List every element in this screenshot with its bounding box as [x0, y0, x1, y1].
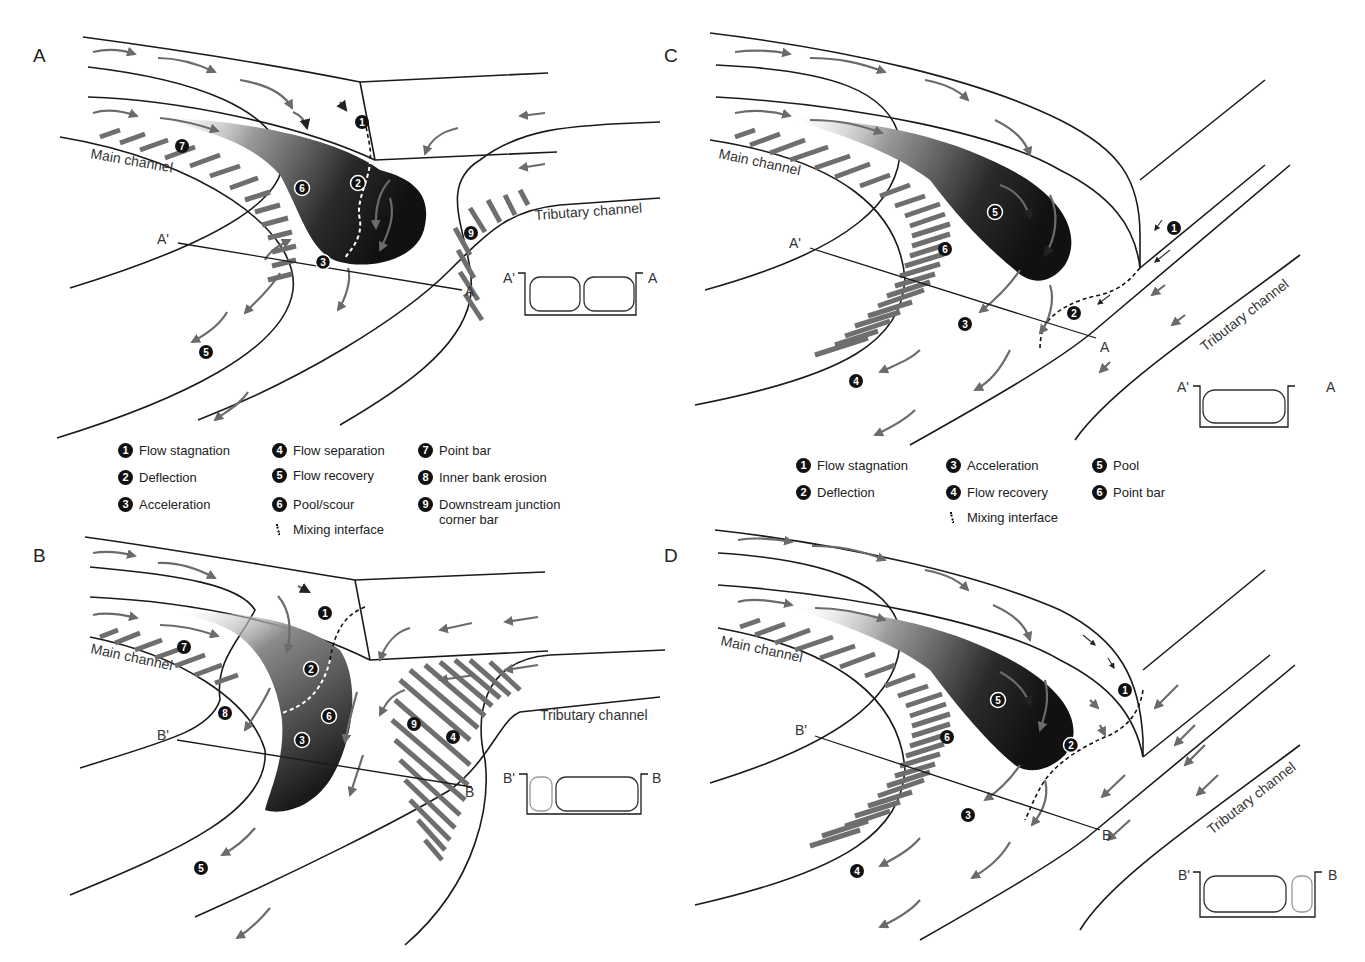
svg-text:2: 2 [1068, 740, 1074, 751]
corner-bar-hatch [392, 660, 520, 860]
svg-text:6: 6 [942, 244, 948, 255]
legend-item: 4Flow recovery [946, 485, 1048, 500]
svg-text:2: 2 [1071, 308, 1077, 319]
legend-item: Mixing interface [272, 522, 384, 537]
legend-left: 1Flow stagnation 2Deflection 3Accelerati… [118, 443, 578, 543]
svg-text:B': B' [503, 770, 515, 786]
svg-text:4: 4 [450, 732, 456, 743]
cross-section-inset: A' A [503, 270, 658, 315]
marker-2-icon: 2 [796, 485, 811, 500]
panel-d: D [664, 530, 1337, 940]
section-end-label: A [465, 283, 475, 299]
flow-arrows [738, 539, 1218, 927]
cross-section-inset: A' A [1177, 379, 1336, 427]
legend-right: 1Flow stagnation 2Deflection 3Accelerati… [796, 458, 1216, 533]
svg-text:2: 2 [308, 664, 314, 675]
tributary-channel-label: Tributary channel [540, 707, 648, 723]
legend-item: 1Flow stagnation [118, 443, 230, 458]
section-start-label: A' [789, 235, 801, 251]
svg-text:4: 4 [854, 866, 860, 877]
section-end-label: B [465, 784, 474, 800]
svg-text:B': B' [1178, 867, 1190, 883]
svg-text:A': A' [503, 270, 515, 286]
svg-text:1: 1 [359, 117, 365, 128]
mixing-interface-icon [272, 522, 287, 537]
legend-item: 4Flow separation [272, 443, 385, 458]
svg-text:B: B [652, 770, 661, 786]
mixing-interface-icon [946, 510, 961, 525]
cross-section-inset: B' B [1178, 867, 1337, 917]
tributary-channel-label: Tributary channel [1204, 758, 1299, 837]
panel-a-label: A [33, 45, 46, 66]
svg-text:3: 3 [299, 735, 305, 746]
svg-text:7: 7 [179, 141, 185, 152]
svg-text:8: 8 [222, 708, 228, 719]
svg-text:1: 1 [1171, 223, 1177, 234]
section-start-label: B' [157, 727, 169, 743]
marker-6-icon: 6 [1092, 485, 1107, 500]
section-end-label: B [1102, 827, 1111, 843]
marker-9-icon: 9 [418, 497, 433, 512]
legend-item: 5Pool [1092, 458, 1139, 473]
svg-text:1: 1 [322, 608, 328, 619]
panel-b-label: B [33, 545, 46, 566]
svg-text:2: 2 [355, 178, 361, 189]
svg-text:9: 9 [468, 228, 474, 239]
marker-5-icon: 5 [1092, 458, 1107, 473]
panel-d-label: D [664, 545, 678, 566]
legend-item: 8Inner bank erosion [418, 470, 547, 485]
legend-item: 1Flow stagnation [796, 458, 908, 473]
svg-text:4: 4 [853, 376, 859, 387]
marker-6-icon: 6 [272, 497, 287, 512]
tributary-channel-label: Tributary channel [534, 200, 643, 223]
marker-2-icon: 2 [118, 470, 133, 485]
marker-3-icon: 3 [118, 497, 133, 512]
svg-text:3: 3 [320, 257, 326, 268]
legend-item: Mixing interface [946, 510, 1058, 525]
svg-text:A': A' [1177, 379, 1189, 395]
legend-item: 6Point bar [1092, 485, 1165, 500]
svg-text:3: 3 [962, 319, 968, 330]
tributary-channel-label: Tributary channel [1197, 275, 1292, 354]
svg-text:9: 9 [411, 719, 417, 730]
panel-c: C [664, 33, 1336, 445]
main-channel-label: Main channel [89, 640, 174, 673]
marker-7-icon: 7 [418, 443, 433, 458]
marker-1-icon: 1 [796, 458, 811, 473]
svg-text:5: 5 [198, 863, 204, 874]
legend-item: 2Deflection [118, 470, 197, 485]
main-channel-label: Main channel [89, 145, 174, 175]
legend-item: 9Downstream junction corner bar [418, 497, 568, 527]
svg-text:6: 6 [299, 183, 305, 194]
marker-4-icon: 4 [272, 443, 287, 458]
marker-1-icon: 1 [118, 443, 133, 458]
panel-c-label: C [664, 45, 678, 66]
section-start-label: B' [795, 722, 807, 738]
legend-item: 6Pool/scour [272, 497, 354, 512]
svg-text:A: A [648, 270, 658, 286]
legend-item: 5Flow recovery [272, 468, 374, 483]
svg-text:1: 1 [1122, 685, 1128, 696]
panel-b: B [33, 537, 665, 945]
marker-8-icon: 8 [418, 470, 433, 485]
svg-text:B: B [1328, 867, 1337, 883]
legend-item: 2Deflection [796, 485, 875, 500]
section-start-label: A' [157, 231, 169, 247]
marker-5-icon: 5 [272, 468, 287, 483]
svg-text:6: 6 [944, 732, 950, 743]
svg-text:A: A [1326, 379, 1336, 395]
legend-item: 3Acceleration [946, 458, 1039, 473]
legend-item: 3Acceleration [118, 497, 211, 512]
legend-item: 7Point bar [418, 443, 491, 458]
svg-text:7: 7 [181, 642, 187, 653]
section-end-label: A [1100, 339, 1110, 355]
panel-a: A [33, 37, 660, 438]
svg-text:5: 5 [992, 207, 998, 218]
svg-text:5: 5 [203, 347, 209, 358]
marker-3-icon: 3 [946, 458, 961, 473]
cross-section-inset: B' B [503, 770, 661, 814]
marker-4-icon: 4 [946, 485, 961, 500]
svg-text:3: 3 [965, 810, 971, 821]
svg-text:6: 6 [326, 711, 332, 722]
svg-text:5: 5 [995, 695, 1001, 706]
